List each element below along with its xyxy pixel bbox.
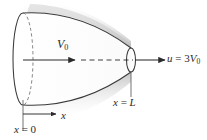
inlet-velocity-subscript: 0 bbox=[64, 43, 68, 52]
outlet-velocity-subscript: 0 bbox=[196, 57, 200, 66]
outlet-velocity-label: u = 3V0 bbox=[167, 53, 200, 66]
outlet-station-label: x = L bbox=[113, 97, 136, 108]
nozzle-diagram-svg bbox=[0, 0, 207, 140]
nozzle-figure: V0 u = 3V0 x = L x = 0 x bbox=[0, 0, 207, 140]
inlet-ellipse-front bbox=[13, 13, 23, 105]
inlet-station-label: x = 0 bbox=[14, 124, 36, 135]
inlet-velocity-label: V0 bbox=[57, 38, 68, 52]
x-axis-label: x bbox=[61, 110, 66, 121]
